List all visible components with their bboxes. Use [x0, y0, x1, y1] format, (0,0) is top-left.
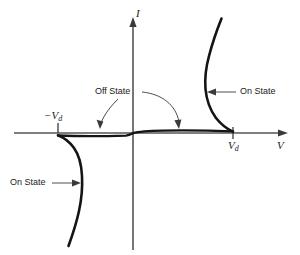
- iv-characteristic-figure: I V Vd −Vd Off State On State On State: [0, 0, 300, 255]
- annotation-off-state: Off State: [95, 87, 130, 96]
- tick-label-breakover-negative: −Vd: [44, 110, 62, 123]
- annotation-on-state-left: On State: [10, 178, 46, 187]
- axis-group: [14, 17, 288, 250]
- tick-label-vd-main: V: [228, 139, 235, 151]
- iv-curve-plot: [0, 0, 300, 255]
- on-state-arrowhead-left: [72, 179, 81, 186]
- off-state-leader-right: [142, 92, 179, 122]
- tick-label-breakover-positive: Vd: [228, 140, 239, 153]
- tick-label-vd-sub: d: [235, 144, 239, 153]
- tick-label-negvd-main: −V: [44, 109, 58, 121]
- x-axis-label: V: [277, 140, 284, 151]
- y-axis-label: I: [136, 8, 140, 19]
- off-state-arrowhead-left: [97, 120, 104, 129]
- x-axis-arrowhead: [278, 129, 288, 136]
- on-state-curve-negative: [58, 135, 82, 246]
- tick-label-negvd-sub: d: [58, 114, 62, 123]
- annotation-on-state-right: On State: [240, 87, 276, 96]
- off-state-arrowhead-right: [174, 120, 181, 130]
- on-state-arrowhead-right: [207, 88, 216, 95]
- on-state-curve-positive: [205, 19, 233, 132]
- off-state-leader-left: [101, 99, 118, 123]
